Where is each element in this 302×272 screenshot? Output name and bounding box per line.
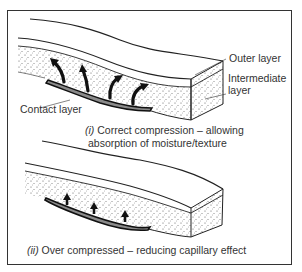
panel-over-compressed — [25, 141, 223, 237]
caption-over-compressed: (ii) Over compressed – reducing capillar… — [27, 244, 246, 256]
block-end-face — [191, 189, 223, 237]
intermediate-layer-label-line1: Intermediate — [228, 72, 286, 84]
outer-layer-label: Outer layer — [229, 52, 281, 64]
caption-numeral: (i) — [85, 124, 94, 136]
caption-correct-compression-line2: absorption of moisture/texture — [88, 137, 227, 149]
contact-layer-label: Contact layer — [20, 103, 82, 115]
block-end-face — [191, 61, 223, 120]
caption-text: Over compressed – reducing capillary eff… — [42, 244, 247, 256]
caption-correct-compression: (i) Correct compression – allowing — [85, 124, 244, 136]
caption-numeral: (ii) — [27, 244, 39, 256]
caption-text: Correct compression – allowing — [97, 124, 243, 136]
intermediate-layer-label-line2: layer — [228, 84, 251, 96]
compression-diagram — [0, 0, 302, 272]
